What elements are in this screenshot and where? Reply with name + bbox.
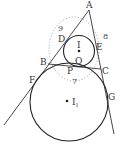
label-d: D xyxy=(58,34,65,44)
label-g: G xyxy=(108,92,115,102)
label-q: Q xyxy=(75,56,82,66)
length-ac: 8 xyxy=(103,32,108,41)
label-p: P xyxy=(67,66,73,76)
label-f: F xyxy=(29,75,35,85)
length-bc: 7 xyxy=(72,77,77,86)
geometry-diagram: A B C D E F G P Q I I1 9 8 7 xyxy=(0,0,123,152)
label-e: E xyxy=(96,42,103,52)
label-c: C xyxy=(102,66,109,76)
label-i1: I1 xyxy=(72,97,79,108)
center-i1-dot xyxy=(66,100,69,103)
circumcircle xyxy=(49,17,99,81)
center-i-dot xyxy=(78,50,81,53)
length-ab: 9 xyxy=(58,24,63,33)
label-b: B xyxy=(40,57,47,67)
label-a: A xyxy=(85,0,93,10)
label-i: I xyxy=(77,40,81,50)
